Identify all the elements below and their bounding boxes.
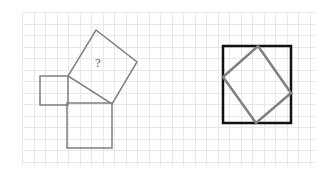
canvas-background [0,0,327,175]
diagram-canvas: ? [0,0,327,175]
grid-background [0,0,327,175]
